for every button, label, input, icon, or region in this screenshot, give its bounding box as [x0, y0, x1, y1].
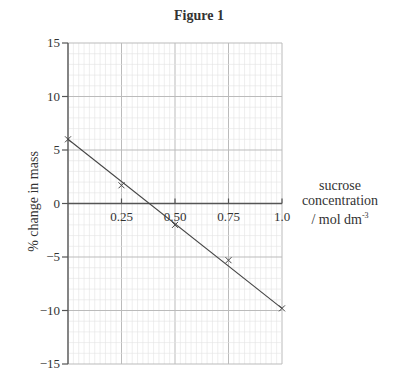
x-axis-label-line3: / mol dm-3 [282, 208, 398, 227]
y-axis-label: % change in mass [26, 151, 41, 252]
x-tick-label: 0.50 [164, 209, 187, 224]
y-tick-label: −5 [46, 249, 60, 264]
x-tick-label: 0.25 [110, 209, 133, 224]
x-axis-label: sucrose concentration / mol dm-3 [282, 178, 398, 227]
y-tick-label: 5 [54, 142, 61, 157]
y-tick-label: −10 [40, 303, 60, 318]
y-tick-label: 0 [54, 196, 61, 211]
x-tick-label: 0.75 [217, 209, 240, 224]
y-tick-label: −15 [40, 356, 60, 371]
x-axis-label-line2: concentration [282, 193, 398, 208]
y-tick-label: 15 [47, 35, 60, 50]
x-axis-label-line1: sucrose [282, 178, 398, 193]
y-tick-label: 10 [47, 89, 60, 104]
